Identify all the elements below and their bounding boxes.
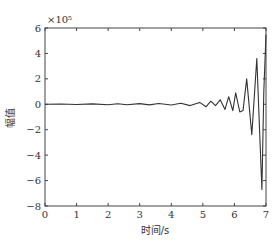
plot-area-border (45, 28, 266, 206)
x-axis-label: 时间/s (141, 224, 170, 236)
x-tick-label: 2 (105, 209, 111, 220)
axis-tick-labels: 012345676420−2−4−6−8 (26, 23, 269, 221)
signal-line (45, 34, 266, 189)
y-tick-label: −6 (26, 175, 41, 186)
x-tick-label: 7 (263, 209, 269, 220)
line-chart: 012345676420−2−4−6−8 ×10⁵ 时间/s 幅值 (0, 0, 277, 242)
y-tick-label: 6 (35, 23, 41, 34)
x-tick-label: 6 (231, 209, 237, 220)
x-tick-label: 1 (73, 209, 79, 220)
y-scale-annotation: ×10⁵ (47, 14, 72, 25)
y-tick-label: 2 (35, 73, 41, 84)
y-tick-label: −4 (26, 150, 41, 161)
x-tick-label: 3 (137, 209, 143, 220)
y-tick-label: −2 (26, 124, 41, 135)
y-tick-label: 0 (35, 99, 41, 110)
plot-frame (45, 28, 266, 206)
x-tick-label: 0 (42, 209, 48, 220)
x-tick-label: 4 (168, 209, 174, 220)
x-tick-label: 5 (200, 209, 206, 220)
y-tick-label: −8 (26, 201, 41, 212)
axis-ticks (45, 28, 266, 206)
y-tick-label: 4 (35, 48, 41, 59)
y-axis-label: 幅值 (4, 108, 16, 128)
